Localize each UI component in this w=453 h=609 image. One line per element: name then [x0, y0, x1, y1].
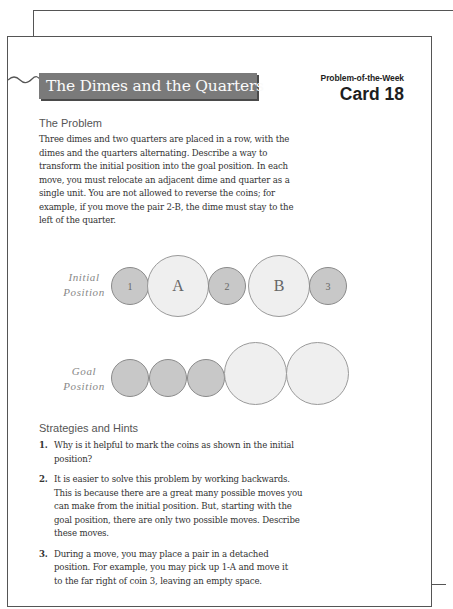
problem-line: left of the quarter.	[39, 214, 339, 228]
goal-quarter-1	[224, 342, 287, 405]
problem-line: transform the initial position into the …	[39, 160, 339, 174]
goal-dime-3	[187, 359, 225, 397]
hint-item: 1. Why is it helpful to mark the coins a…	[39, 439, 369, 466]
dime-3: 3	[309, 267, 347, 305]
hint-line: to the far right of coin 3, leaving an e…	[54, 575, 288, 589]
hint-text: Why is it helpful to mark the coins as s…	[54, 439, 294, 466]
quarter-a: A	[147, 255, 209, 317]
hint-item: 3. During a move, you may place a pair i…	[39, 548, 369, 589]
wavy-line-icon	[8, 74, 40, 84]
problem-line: move, you must relocate an adjacent dime…	[39, 174, 339, 188]
goal-dime-2	[149, 359, 187, 397]
card-number: Card 18	[321, 84, 404, 104]
problem-text: Three dimes and two quarters are placed …	[39, 133, 339, 228]
goal-dime-1	[111, 359, 149, 397]
quarter-b: B	[248, 255, 310, 317]
card-id-block: Problem-of-the-Week Card 18	[321, 73, 404, 104]
label-line: Position	[54, 379, 114, 394]
dime-1: 1	[111, 267, 149, 305]
hint-line: It is easier to solve this problem by wo…	[54, 473, 302, 487]
goal-quarter-2	[286, 342, 349, 405]
problem-line: example, if you move the pair 2-B, the d…	[39, 201, 339, 215]
hint-number: 2.	[39, 473, 54, 541]
hints-heading: Strategies and Hints	[39, 422, 138, 434]
dime-2: 2	[208, 267, 246, 305]
series-label: Problem-of-the-Week	[321, 73, 404, 83]
label-line: Goal	[54, 364, 114, 379]
label-line: Initial	[54, 270, 114, 285]
problem-line: Three dimes and two quarters are placed …	[39, 133, 339, 147]
problem-card: The Dimes and the Quarters Problem-of-th…	[7, 36, 432, 607]
hint-number: 3.	[39, 548, 54, 589]
label-line: Position	[54, 285, 114, 300]
goal-position-label: Goal Position	[54, 364, 114, 394]
hint-line: position. For example, you may pick up 1…	[54, 561, 288, 575]
hint-number: 1.	[39, 439, 54, 466]
hint-line: This is because there are a great many p…	[54, 487, 302, 501]
hint-line: these moves.	[54, 527, 302, 541]
hint-line: Why is it helpful to mark the coins as s…	[54, 439, 294, 453]
card-title-banner: The Dimes and the Quarters	[39, 73, 257, 99]
hint-item: 2. It is easier to solve this problem by…	[39, 473, 369, 541]
hint-line: During a move, you may place a pair in a…	[54, 548, 288, 562]
back-card-edge	[432, 584, 446, 585]
hint-text: It is easier to solve this problem by wo…	[54, 473, 302, 541]
problem-line: single unit. You are not allowed to reve…	[39, 187, 339, 201]
hints-list: 1. Why is it helpful to mark the coins a…	[39, 439, 369, 595]
hint-line: goal position, there are only two possib…	[54, 514, 302, 528]
hint-text: During a move, you may place a pair in a…	[54, 548, 288, 589]
hint-line: can make from the initial position. But,…	[54, 500, 302, 514]
problem-line: dimes and the quarters alternating. Desc…	[39, 147, 339, 161]
hint-line: position?	[54, 453, 294, 467]
initial-position-label: Initial Position	[54, 270, 114, 300]
problem-heading: The Problem	[39, 117, 102, 129]
